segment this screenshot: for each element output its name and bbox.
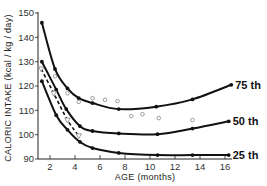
data-point <box>91 101 95 105</box>
y-tick-label: 130 <box>18 56 34 67</box>
data-point <box>64 107 68 111</box>
y-tick-labels: 90100110120130140150 <box>18 7 34 164</box>
open-circle-marker <box>66 92 70 96</box>
open-circle-marker <box>77 100 81 104</box>
y-tick-label: 150 <box>18 7 34 18</box>
open-circle-marker <box>191 118 195 122</box>
x-tick-label: 16 <box>220 161 231 172</box>
x-tick-label: 10 <box>145 161 156 172</box>
open-circle-marker <box>103 98 107 102</box>
data-point <box>156 132 160 136</box>
series-layer <box>39 21 234 157</box>
data-point <box>156 153 160 157</box>
series-1 <box>40 60 231 136</box>
y-tick-label: 110 <box>19 105 34 116</box>
percentile-label: 50 th <box>233 115 259 127</box>
y-tick-label: 100 <box>18 129 34 140</box>
data-point <box>40 21 44 25</box>
y-tick-label: 140 <box>18 32 34 43</box>
y-tick-label: 120 <box>18 80 34 91</box>
data-point <box>78 124 82 128</box>
y-axis-label: CALORIC INTAKE (kcal / kg / day) <box>3 14 13 161</box>
data-point <box>227 153 231 157</box>
data-point <box>54 113 58 117</box>
x-tick-label: 2 <box>47 161 52 172</box>
open-circle-marker <box>129 114 133 118</box>
x-axis-label: AGE (months) <box>115 172 176 182</box>
data-point <box>40 79 44 83</box>
open-circle-marker <box>157 116 161 120</box>
x-tick-label: 8 <box>122 161 127 172</box>
percentile-label: 75 th <box>235 79 261 91</box>
data-point <box>117 107 121 111</box>
data-point <box>191 127 195 131</box>
series-4 <box>53 74 194 121</box>
x-tick-label: 6 <box>97 161 102 172</box>
series-0 <box>40 21 233 111</box>
growth-chart: 90100110120130140150 246810121416 75 th5… <box>0 0 267 186</box>
data-point <box>40 60 44 64</box>
data-point <box>66 87 70 91</box>
x-tick-label: 14 <box>195 161 206 172</box>
percentile-label: 25 th <box>233 149 259 161</box>
open-circle-marker <box>116 99 120 103</box>
data-point <box>117 151 121 155</box>
y-tick-label: 90 <box>23 153 34 164</box>
data-point <box>78 140 82 144</box>
data-point <box>229 83 233 87</box>
open-circle-marker <box>53 74 57 78</box>
triangle-marker <box>76 134 81 139</box>
open-circle-marker <box>141 112 145 116</box>
series-labels: 75 th50 th25 th <box>233 79 261 161</box>
data-point <box>117 132 121 136</box>
x-tick-labels: 246810121416 <box>47 161 230 172</box>
data-point <box>91 146 95 150</box>
data-point <box>53 67 57 71</box>
x-tick-label: 12 <box>170 161 181 172</box>
data-point <box>91 129 95 133</box>
data-point <box>191 97 195 101</box>
percentile-curve <box>42 23 231 110</box>
data-point <box>227 119 231 123</box>
data-point <box>77 96 81 100</box>
data-point <box>191 153 195 157</box>
open-circle-marker <box>91 96 95 100</box>
data-point <box>66 128 70 132</box>
x-tick-label: 4 <box>72 161 77 172</box>
data-point <box>154 105 158 109</box>
